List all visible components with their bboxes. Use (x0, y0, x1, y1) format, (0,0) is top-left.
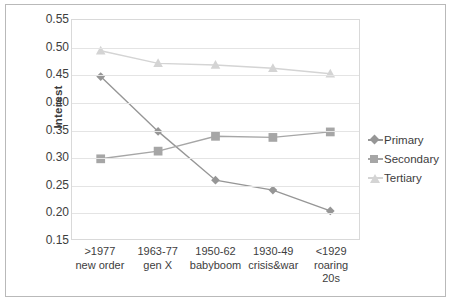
legend-marker-shape (370, 135, 380, 145)
x-axis-tick-label-line: new order (68, 259, 132, 273)
gridline (72, 213, 359, 214)
y-axis-tick-label: 0.35 (24, 123, 69, 137)
gridline (72, 186, 359, 187)
y-axis-tick-label: 0.30 (24, 150, 69, 164)
y-axis-tick-label: 0.20 (24, 205, 69, 219)
series-tertiary (96, 46, 335, 78)
x-axis-tick-label: 1930-49crisis&war (241, 245, 305, 272)
legend-marker-square-icon (368, 152, 383, 165)
legend-label: Tertiary (384, 172, 422, 184)
marker-square (326, 128, 335, 137)
gridline (72, 158, 359, 159)
legend-marker-shape (370, 174, 380, 183)
x-axis-tick-label-line: roaring (299, 259, 363, 273)
chart-legend: PrimarySecondaryTertiary (368, 131, 448, 188)
legend-marker-shape (370, 155, 378, 163)
x-axis-tick-label-line: 20s (299, 272, 363, 286)
legend-item-primary[interactable]: Primary (368, 131, 448, 148)
x-axis-tick-label-line: gen X (126, 259, 190, 273)
x-axis-tick-label: >1977new order (68, 245, 132, 272)
gridline (72, 103, 359, 104)
x-axis-tick-label-line: 1950-62 (184, 245, 248, 259)
marker-diamond (269, 186, 278, 195)
x-axis-tick-label-line: 1930-49 (241, 245, 305, 259)
legend-marker-diamond-icon (368, 133, 383, 146)
y-axis-tick-label: 0.55 (24, 12, 69, 26)
gridline (72, 131, 359, 132)
x-axis-tick-labels: >1977new order1963-77gen X1950-62babyboo… (71, 245, 360, 295)
x-axis-tick-label-line: >1977 (68, 245, 132, 259)
series-primary (96, 72, 334, 215)
y-axis-tick-labels: 0.550.500.450.400.350.300.250.200.15 (24, 5, 69, 298)
gridline (72, 48, 359, 49)
legend-label: Secondary (384, 153, 439, 165)
y-axis-tick-label: 0.25 (24, 178, 69, 192)
legend-label: Primary (384, 134, 424, 146)
y-axis-tick-label: 0.45 (24, 67, 69, 81)
legend-item-secondary[interactable]: Secondary (368, 150, 448, 167)
x-axis-tick-label-line: babyboom (184, 259, 248, 273)
y-axis-tick-label: 0.40 (24, 95, 69, 109)
chart-figure: Interest 0.550.500.450.400.350.300.250.2… (5, 4, 446, 297)
legend-marker-triangle-icon (368, 171, 383, 184)
gridline (72, 75, 359, 76)
legend-item-tertiary[interactable]: Tertiary (368, 169, 448, 186)
x-axis-tick-label-line: crisis&war (241, 259, 305, 273)
x-axis-tick-label-line: <1929 (299, 245, 363, 259)
x-axis-tick-label-line: 1963-77 (126, 245, 190, 259)
x-axis-tick-label: 1963-77gen X (126, 245, 190, 272)
marker-square (269, 133, 278, 142)
plot-area (71, 19, 360, 240)
series-line (101, 77, 331, 211)
x-axis-tick-label: 1950-62babyboom (184, 245, 248, 272)
marker-square (211, 132, 220, 141)
y-axis-tick-label: 0.15 (24, 233, 69, 247)
y-axis-tick-label: 0.50 (24, 40, 69, 54)
marker-square (154, 147, 163, 156)
x-axis-tick-label: <1929roaring20s (299, 245, 363, 286)
